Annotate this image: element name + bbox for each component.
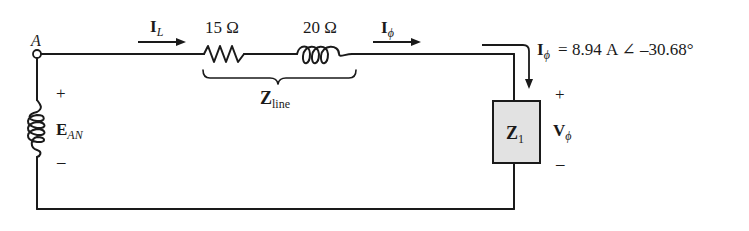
load-voltage-label: Vϕ [553, 122, 572, 139]
phase-current-value-text: = 8.94 A ∠ –30.68° [558, 40, 693, 59]
line-current-label: IL [150, 18, 163, 35]
line-current-symbol: I [150, 17, 157, 36]
load-subscript: 1 [518, 132, 524, 146]
line-current-arrow [138, 38, 186, 46]
inductor-value-label: 20 Ω [303, 19, 337, 36]
z-line-label: Zline [260, 89, 290, 107]
load-voltage-plus-sign: + [555, 86, 565, 103]
phase-current-value-label: Iϕ = 8.94 A ∠ –30.68° [537, 41, 694, 58]
z-line-symbol: Z [260, 88, 272, 108]
source-label: EAN [56, 121, 83, 138]
source-plus-sign: + [56, 85, 66, 102]
phase-current-label: Iϕ [381, 19, 394, 36]
resistor-value-label: 15 Ω [205, 19, 239, 36]
node-a-label: A [31, 33, 41, 49]
source-subscript: AN [67, 128, 82, 142]
z-line-brace [203, 70, 356, 84]
source-coil [28, 100, 45, 157]
load-voltage-symbol: V [553, 121, 565, 140]
source-minus-sign: – [57, 153, 66, 170]
resistor-15-ohm [204, 46, 244, 62]
line-current-subscript: L [157, 25, 164, 39]
load-symbol: Z [506, 123, 518, 143]
circuit-diagram: A IL 15 Ω 20 Ω Iϕ Zline Iϕ = 8.94 A ∠ –3… [0, 0, 749, 231]
load-voltage-subscript: ϕ [565, 129, 571, 143]
phase-current-value-symbol: I [537, 40, 544, 59]
z-line-subscript: line [272, 97, 290, 111]
load-z1-label: Z1 [506, 124, 524, 142]
phase-current-subscript: ϕ [388, 26, 394, 40]
phase-current-value-subscript: ϕ [544, 48, 550, 62]
load-voltage-minus-sign: – [556, 155, 565, 172]
phase-current-arrow [373, 38, 421, 46]
node-a-terminal [33, 50, 41, 58]
phase-current-symbol: I [381, 18, 388, 37]
phase-current-bent-arrow [482, 45, 533, 89]
circuit-schematic [0, 0, 749, 231]
inductor-20-ohm [297, 47, 352, 64]
source-symbol: E [56, 120, 67, 139]
